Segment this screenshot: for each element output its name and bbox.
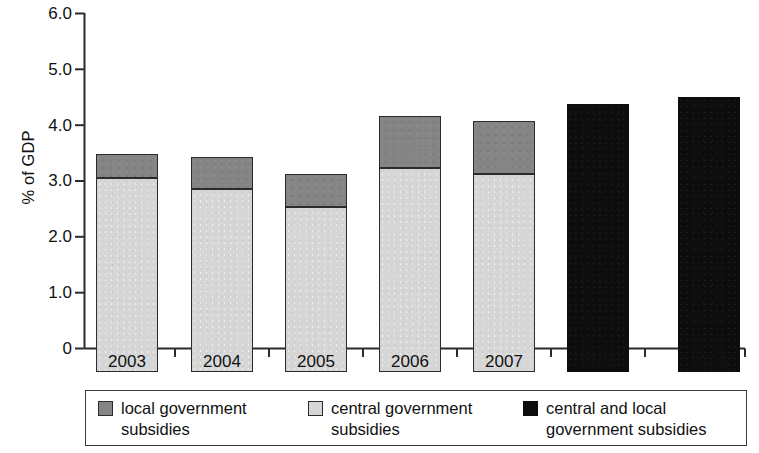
light-gray-swatch-icon (308, 401, 323, 416)
plot-area: % of GDP 6.0 5.0 4.0 3.0 2.0 1.0 0 (0, 0, 759, 372)
bar-group-2009[interactable] (678, 97, 740, 372)
bar-segment-central-2004[interactable] (191, 189, 253, 372)
x-tick-label: 2008 (563, 352, 633, 372)
bars-layer (0, 0, 759, 372)
legend-label: central government subsidies (331, 398, 472, 440)
bar-segment-combined-2008[interactable] (567, 104, 629, 372)
bar-segment-local-2004[interactable] (191, 157, 253, 189)
x-tick-label: 2003 (92, 352, 162, 372)
bar-group-2006[interactable] (379, 116, 441, 372)
bar-group-2007[interactable] (473, 121, 535, 372)
legend-item-local-government[interactable]: local government subsidies (98, 398, 308, 440)
bar-segment-local-2003[interactable] (96, 154, 158, 178)
x-axis-tick-labels: 2003 2004 2005 2006 2007 2008 2009 (0, 352, 759, 380)
legend-label: central and local government subsidies (546, 398, 707, 440)
legend-label: local government subsidies (121, 398, 247, 440)
x-tick-label: 2004 (187, 352, 257, 372)
bar-group-2003[interactable] (96, 154, 158, 372)
legend-item-central-and-local[interactable]: central and local government subsidies (523, 398, 743, 440)
x-tick-label: 2007 (469, 352, 539, 372)
bar-segment-central-2006[interactable] (379, 168, 441, 372)
bar-segment-combined-2009[interactable] (678, 97, 740, 372)
bar-group-2008[interactable] (567, 104, 629, 372)
bar-group-2004[interactable] (191, 157, 253, 372)
chart-legend: local government subsidies central gover… (85, 390, 747, 446)
legend-item-central-government[interactable]: central government subsidies (308, 398, 523, 440)
bar-segment-central-2003[interactable] (96, 178, 158, 372)
bar-segment-central-2007[interactable] (473, 174, 535, 372)
x-tick-label: 2009 (674, 352, 744, 372)
dark-gray-swatch-icon (98, 401, 113, 416)
bar-segment-local-2005[interactable] (285, 174, 347, 207)
x-tick-label: 2005 (281, 352, 351, 372)
bar-segment-local-2007[interactable] (473, 121, 535, 175)
bar-group-2005[interactable] (285, 174, 347, 372)
chart-figure: % of GDP 6.0 5.0 4.0 3.0 2.0 1.0 0 (0, 0, 759, 453)
bar-segment-central-2005[interactable] (285, 207, 347, 372)
x-tick-label: 2006 (375, 352, 445, 372)
black-swatch-icon (523, 401, 538, 416)
bar-segment-local-2006[interactable] (379, 116, 441, 168)
